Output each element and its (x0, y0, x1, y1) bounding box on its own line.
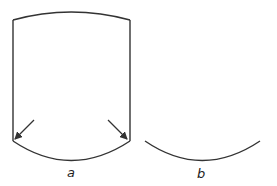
panel-b: b (145, 141, 260, 181)
arc-b (145, 141, 260, 161)
label-b: b (197, 166, 205, 181)
container-bottom-arc (13, 141, 130, 161)
panel-a: a (13, 12, 130, 180)
container-top-arc (13, 12, 130, 20)
label-a: a (67, 165, 75, 180)
arrow-left-icon (15, 120, 34, 139)
diagram-canvas: a b (0, 0, 277, 186)
arrow-right-icon (108, 120, 127, 139)
